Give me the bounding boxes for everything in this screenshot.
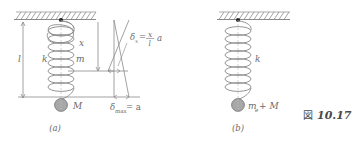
ceiling-support-a xyxy=(14,12,96,20)
physics-diagram: l k m x M δ x = x l a δ max = a (a) xyxy=(0,0,357,146)
panel-b: k m e + M (b) xyxy=(217,12,290,133)
delta-x-equals: = xyxy=(139,32,146,42)
ceiling-support-b xyxy=(217,12,290,20)
delta-x-denominator: l xyxy=(149,39,152,48)
panel-a-caption: (a) xyxy=(49,123,61,133)
label-spring-constant-k-b: k xyxy=(255,54,260,64)
label-spring-constant-k: k xyxy=(42,54,47,64)
figure-container: l k m x M δ x = x l a δ max = a (a) xyxy=(0,0,357,146)
panel-a: l k m x M δ x = x l a δ max = a (a) xyxy=(14,12,162,133)
annotation-delta-x: δ x = x l a xyxy=(130,30,162,48)
annotation-delta-max: δ max = a xyxy=(110,102,141,114)
spring-a xyxy=(47,21,74,99)
figure-kanji-label: 図 xyxy=(303,110,313,121)
delta-x-numerator: x xyxy=(148,30,153,39)
length-dimension-l xyxy=(21,22,25,98)
label-spring-mass-m: m xyxy=(76,54,85,64)
label-effective-mass: m e + M xyxy=(248,101,279,113)
effective-mass-plus-M: + M xyxy=(259,101,279,111)
label-length-l: l xyxy=(18,54,21,64)
coordinate-dimension-x xyxy=(96,22,100,71)
delta-max-equals: = a xyxy=(126,102,141,112)
figure-number-group: 図 10.17 xyxy=(303,109,352,122)
delta-x-factor: a xyxy=(157,33,162,43)
panel-b-caption: (b) xyxy=(232,123,244,133)
displacement-triangle xyxy=(108,20,129,97)
figure-number: 10.17 xyxy=(317,109,352,122)
label-hanging-mass-M: M xyxy=(72,101,83,111)
label-coordinate-x: x xyxy=(79,38,84,48)
